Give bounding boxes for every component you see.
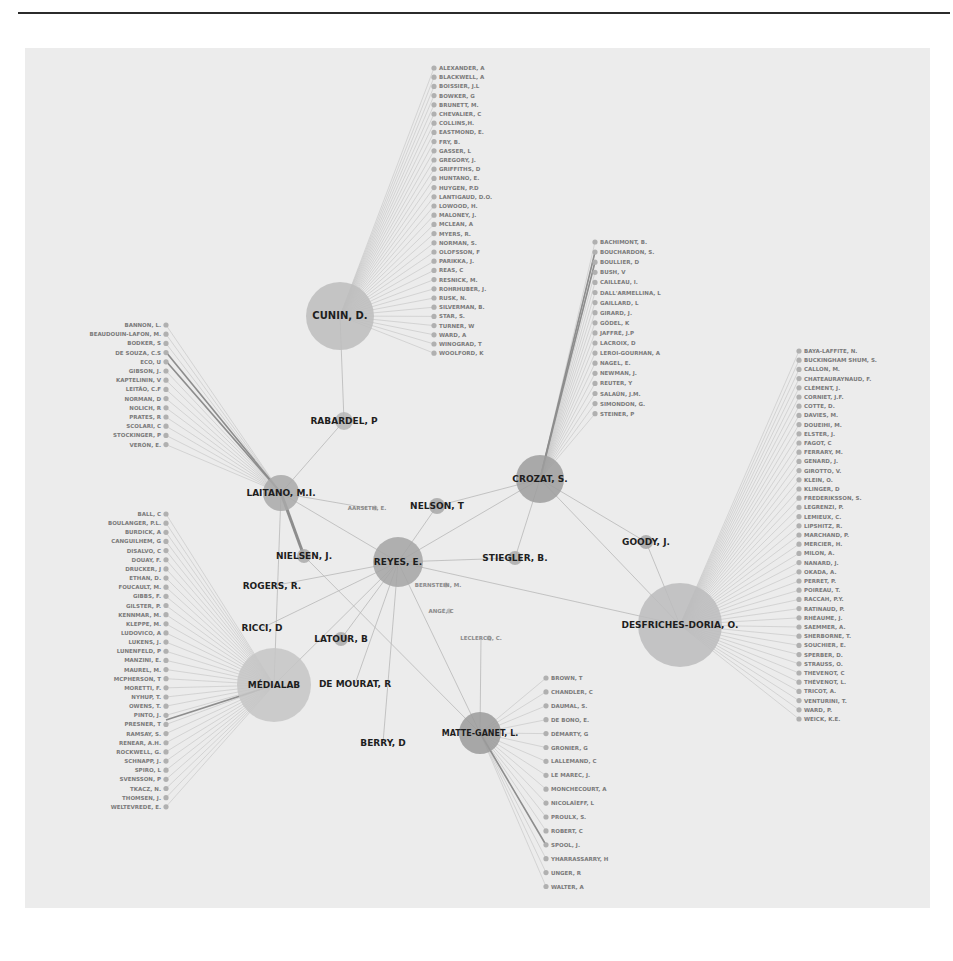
leaf-node[interactable] (431, 341, 436, 346)
leaf-node[interactable] (431, 130, 436, 135)
hub-node-medialab[interactable]: MÉDIALAB (237, 648, 311, 722)
minor-node[interactable]: AARSETH, E. (348, 505, 387, 511)
leaf-node[interactable] (431, 75, 436, 80)
leaf-node[interactable] (796, 422, 801, 427)
leaf-node[interactable] (543, 842, 548, 847)
leaf-node[interactable] (163, 414, 168, 419)
hub-node-rogers[interactable]: ROGERS, R. (243, 581, 302, 591)
leaf-node[interactable] (431, 249, 436, 254)
leaf-node[interactable] (592, 381, 597, 386)
leaf-node[interactable] (592, 351, 597, 356)
leaf-node[interactable] (163, 530, 168, 535)
leaf-node[interactable] (163, 585, 168, 590)
leaf-node[interactable] (543, 675, 548, 680)
leaf-node[interactable] (543, 787, 548, 792)
leaf-node[interactable] (592, 320, 597, 325)
leaf-node[interactable] (796, 385, 801, 390)
leaf-node[interactable] (796, 716, 801, 721)
leaf-node[interactable] (796, 486, 801, 491)
leaf-node[interactable] (431, 222, 436, 227)
leaf-node[interactable] (592, 270, 597, 275)
leaf-node[interactable] (163, 368, 168, 373)
leaf-node[interactable] (796, 615, 801, 620)
leaf-node[interactable] (796, 505, 801, 510)
leaf-node[interactable] (796, 459, 801, 464)
leaf-node[interactable] (163, 511, 168, 516)
leaf-node[interactable] (431, 194, 436, 199)
leaf-node[interactable] (163, 566, 168, 571)
leaf-node[interactable] (431, 305, 436, 310)
leaf-node[interactable] (431, 93, 436, 98)
hub-node-nielsen[interactable]: NIELSEN, J. (276, 549, 332, 563)
leaf-node[interactable] (163, 424, 168, 429)
leaf-node[interactable] (163, 433, 168, 438)
leaf-node[interactable] (163, 405, 168, 410)
leaf-node[interactable] (431, 102, 436, 107)
leaf-node[interactable] (431, 157, 436, 162)
leaf-node[interactable] (796, 624, 801, 629)
leaf-node[interactable] (592, 290, 597, 295)
leaf-node[interactable] (431, 213, 436, 218)
leaf-node[interactable] (163, 713, 168, 718)
leaf-node[interactable] (796, 698, 801, 703)
leaf-node[interactable] (796, 404, 801, 409)
leaf-node[interactable] (796, 597, 801, 602)
leaf-node[interactable] (163, 332, 168, 337)
leaf-node[interactable] (592, 411, 597, 416)
leaf-node[interactable] (163, 521, 168, 526)
leaf-node[interactable] (796, 652, 801, 657)
leaf-node[interactable] (163, 731, 168, 736)
leaf-node[interactable] (543, 828, 548, 833)
leaf-node[interactable] (796, 468, 801, 473)
hub-node-latour[interactable]: LATOUR, B (314, 632, 368, 646)
hub-node-ricci[interactable]: RICCI, D (242, 623, 283, 633)
leaf-node[interactable] (163, 740, 168, 745)
leaf-node[interactable] (163, 676, 168, 681)
leaf-node[interactable] (796, 514, 801, 519)
leaf-node[interactable] (592, 361, 597, 366)
leaf-node[interactable] (163, 359, 168, 364)
leaf-node[interactable] (796, 358, 801, 363)
leaf-node[interactable] (592, 401, 597, 406)
leaf-node[interactable] (163, 396, 168, 401)
hub-node-reyes[interactable]: REYES, E. (373, 537, 423, 587)
leaf-node[interactable] (163, 322, 168, 327)
leaf-node[interactable] (431, 240, 436, 245)
leaf-node[interactable] (796, 450, 801, 455)
leaf-node[interactable] (796, 367, 801, 372)
leaf-node[interactable] (163, 722, 168, 727)
leaf-node[interactable] (592, 371, 597, 376)
leaf-node[interactable] (163, 640, 168, 645)
leaf-node[interactable] (431, 84, 436, 89)
leaf-node[interactable] (796, 542, 801, 547)
leaf-node[interactable] (796, 643, 801, 648)
leaf-node[interactable] (796, 634, 801, 639)
leaf-node[interactable] (163, 378, 168, 383)
leaf-node[interactable] (163, 749, 168, 754)
hub-node-cunin[interactable]: CUNIN, D. (306, 282, 374, 350)
hub-node-stiegler[interactable]: STIEGLER, B. (482, 551, 547, 565)
leaf-node[interactable] (796, 477, 801, 482)
leaf-node[interactable] (543, 689, 548, 694)
leaf-node[interactable] (543, 870, 548, 875)
leaf-node[interactable] (796, 394, 801, 399)
minor-node[interactable]: ANGÉ, C (428, 607, 453, 614)
leaf-node[interactable] (592, 391, 597, 396)
leaf-node[interactable] (431, 148, 436, 153)
leaf-node[interactable] (592, 310, 597, 315)
leaf-node[interactable] (431, 185, 436, 190)
leaf-node[interactable] (796, 689, 801, 694)
leaf-node[interactable] (163, 658, 168, 663)
leaf-node[interactable] (592, 340, 597, 345)
leaf-node[interactable] (431, 295, 436, 300)
co-citation-network-graph[interactable]: CUNIN, D.RABARDEL, PLAITANO, M.I.CROZAT,… (0, 0, 953, 961)
leaf-node[interactable] (163, 539, 168, 544)
hub-node-demourat[interactable]: DE MOURAT, R (319, 679, 391, 689)
leaf-node[interactable] (431, 203, 436, 208)
leaf-node[interactable] (796, 523, 801, 528)
leaf-node[interactable] (163, 557, 168, 562)
leaf-node[interactable] (796, 348, 801, 353)
leaf-node[interactable] (163, 694, 168, 699)
leaf-node[interactable] (431, 167, 436, 172)
leaf-node[interactable] (431, 277, 436, 282)
